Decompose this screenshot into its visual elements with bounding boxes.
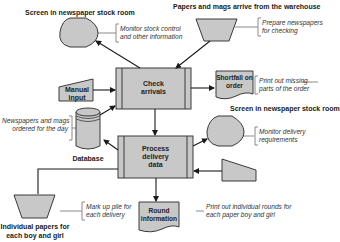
heading-screen-delivery: Screen in newspaper stock room xyxy=(230,105,340,112)
caption-individual-papers: Individual papers for each boy and girl xyxy=(0,223,70,240)
label-check-arrivals: Check arrivals xyxy=(122,80,185,96)
note-database: Newspapers and mags ordered for the day xyxy=(2,117,68,133)
manual-input-shape-keyboard xyxy=(222,159,256,181)
note-print-missing: Print out missing parts of the order xyxy=(259,77,309,93)
heading-screen-stock-room: Screen in newspaper stock room xyxy=(25,9,135,16)
display-shape-delivery-screen xyxy=(207,116,244,146)
display-shape-stock-screen xyxy=(60,18,98,47)
note-prepare-newspapers: Prepare newspapers for checking xyxy=(262,19,323,35)
label-round-info: Round information xyxy=(138,207,180,223)
heading-warehouse: Papers and mags arrive from the warehous… xyxy=(173,3,320,10)
note-monitor-delivery: Monitor delivery requirements xyxy=(259,128,306,144)
note-print-rounds: Print out individual rounds for each pap… xyxy=(206,203,291,219)
label-manual-input: Manual input xyxy=(61,86,93,102)
label-shortfall: Shortfall on order xyxy=(215,74,254,90)
database-cylinder xyxy=(76,108,100,149)
manual-operation-shape-individual-papers xyxy=(14,195,55,218)
label-process-delivery: Process delivery data xyxy=(124,145,187,169)
manual-operation-shape-warehouse xyxy=(196,19,237,41)
note-monitor-stock: Monitor stock control and other informat… xyxy=(120,25,182,41)
label-database: Database xyxy=(66,155,110,163)
note-mark-up-pile: Mark up pile for each delivery xyxy=(86,203,131,219)
